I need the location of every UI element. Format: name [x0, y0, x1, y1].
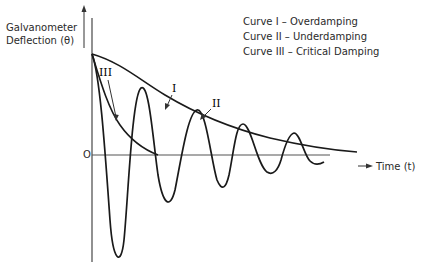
y-axis-arrow-icon — [82, 5, 87, 12]
plot-area: III I II — [0, 0, 435, 272]
curve-1-leader-arrowhead-icon — [165, 103, 170, 110]
curve-2-underdamping — [92, 54, 324, 257]
time-arrow-icon — [366, 164, 373, 169]
curve-2-label: II — [212, 97, 221, 110]
curve-1-label: I — [172, 82, 176, 95]
curve-3-label: III — [99, 66, 112, 79]
curve-3-leader-arrowhead-icon — [114, 114, 119, 121]
